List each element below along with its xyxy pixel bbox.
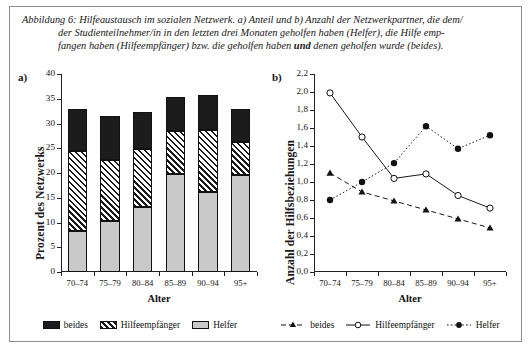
bar-segment-hilfeempfaenger: [133, 149, 153, 207]
panel-a-y-tick-label: 15: [46, 193, 55, 202]
panel-b-x-tick: [506, 272, 507, 276]
panel-a-x-axis-title: Alter: [61, 293, 257, 304]
bar-stack: [68, 74, 88, 272]
panel-a-y-tick: [57, 198, 61, 199]
panel-a-letter: a): [18, 71, 27, 83]
marker-helfer: [359, 179, 365, 185]
bar-segment-beides: [133, 112, 153, 149]
line-hilfeempfaenger: [330, 93, 490, 208]
panel-b-line-series: [314, 74, 506, 272]
panel-b-y-tick-label: 1,6: [297, 123, 308, 132]
bar-stack: [198, 74, 218, 272]
line-helfer: [330, 126, 490, 200]
panel-a-x-tick: [126, 272, 127, 276]
panel-a-x-tick: [224, 272, 225, 276]
marker-helfer: [327, 197, 333, 203]
caption-line-3: fangen haben (Hilfeempfänger) bzw. die g…: [22, 39, 514, 52]
caption-line-1: Abbildung 6: Hilfeaustausch im sozialen …: [22, 13, 514, 26]
panel-b-x-tick-label: 85–89: [415, 279, 436, 288]
marker-helfer: [423, 123, 429, 129]
panel-a-y-tick: [57, 247, 61, 248]
bar-stack: [133, 74, 153, 272]
legend-swatch-beides-icon: [43, 321, 60, 329]
panel-b-x-tick: [378, 272, 379, 276]
panel-b-y-tick-label: 0,0: [297, 267, 308, 276]
bar-segment-beides: [68, 109, 88, 152]
panel-b-y-tick-label: 1,2: [297, 159, 308, 168]
panel-a-y-tick: [57, 148, 61, 149]
bar-segment-beides: [231, 109, 251, 142]
legend-key-dotted-filledcircle-icon: [446, 320, 472, 330]
panel-b-plot-area: 0,00,20,40,60,81,01,21,41,61,82,02,2 70–…: [314, 74, 506, 272]
marker-helfer: [455, 146, 461, 152]
marker-hilfeempfaenger: [423, 171, 429, 177]
panel-a-legend: beides Hilfeempfänger Helfer: [14, 320, 266, 330]
marker-helfer: [487, 132, 493, 138]
panel-a-y-tick-label: 25: [46, 144, 55, 153]
marker-hilfeempfaenger: [359, 134, 365, 140]
legend-label-helfer: Helfer: [213, 320, 237, 330]
panel-b-y-tick-label: 2,2: [297, 69, 308, 78]
line-beides: [330, 173, 490, 228]
legend-item-b-hilfeempfaenger: Hilfeempfänger: [345, 320, 434, 330]
panel-a-y-tick-label: 35: [46, 94, 55, 103]
bar-segment-helfer: [198, 192, 218, 272]
bar-segment-hilfeempfaenger: [231, 142, 251, 175]
marker-hilfeempfaenger: [455, 192, 461, 198]
bar-segment-helfer: [100, 221, 120, 272]
panel-b-x-tick: [474, 272, 475, 276]
panel-b-y-tick-label: 1,0: [297, 177, 308, 186]
legend-key-solid-opencircle-icon: [345, 320, 371, 330]
bar-segment-helfer: [133, 207, 153, 272]
panel-a-x-tick-label: 95+: [234, 279, 247, 288]
bar-segment-hilfeempfaenger: [100, 160, 120, 221]
marker-beides: [358, 189, 365, 195]
panel-b-y-axis-title: Anzahl der Hilfsbeziehungen: [284, 140, 296, 285]
legend-item-helfer: Helfer: [192, 320, 237, 330]
panel-a: a) Prozent des Netzwerks 051015202530354…: [14, 60, 266, 318]
panel-a-y-tick-label: 30: [46, 119, 55, 128]
panel-a-x-tick: [61, 272, 62, 276]
legend-swatch-hilfeempfaenger-icon: [100, 321, 117, 329]
panel-b-x-tick-label: 70–74: [319, 279, 340, 288]
panel-b-y-tick-label: 0,8: [297, 195, 308, 204]
panel-a-x-tick-label: 90–94: [197, 279, 218, 288]
panel-a-x-tick: [257, 272, 258, 276]
panel-b-x-tick: [314, 272, 315, 276]
panel-a-y-tick: [57, 74, 61, 75]
bar-segment-hilfeempfaenger: [166, 131, 186, 174]
legend-item-hilfeempfaenger: Hilfeempfänger: [100, 320, 180, 330]
panel-b-y-tick-label: 0,4: [297, 231, 308, 240]
legend-item-beides: beides: [43, 320, 88, 330]
bar-segment-hilfeempfaenger: [68, 151, 88, 231]
panel-b-x-tick-label: 95+: [483, 279, 496, 288]
panel-a-y-tick: [57, 124, 61, 125]
panel-b-legend: beides Hilfeempfänger Helfer: [262, 320, 518, 330]
panel-a-y-axis-title: Prozent des Netzwerks: [34, 146, 46, 260]
legend-label-beides: beides: [64, 320, 88, 330]
caption-line-3-post: denen geholfen wurde (beides).: [311, 40, 444, 51]
panel-a-x-tick: [192, 272, 193, 276]
panel-a-y-tick-label: 10: [46, 218, 55, 227]
panel-b-x-tick: [346, 272, 347, 276]
bar-stack: [166, 74, 186, 272]
marker-beides: [454, 216, 461, 222]
bar-segment-hilfeempfaenger: [198, 130, 218, 192]
bar-segment-helfer: [231, 175, 251, 273]
panel-a-y-tick-label: 5: [50, 243, 55, 252]
panel-a-y-tick: [57, 223, 61, 224]
caption-line-3-pre: fangen haben (Hilfeempfänger) bzw. die g…: [58, 40, 294, 51]
panel-a-y-tick-label: 40: [46, 69, 55, 78]
marker-beides: [326, 170, 333, 176]
panel-a-y-axis-line: [61, 74, 62, 272]
bar-stack: [100, 74, 120, 272]
legend-label-b-beides: beides: [310, 320, 334, 330]
panel-a-x-tick-label: 70–74: [67, 279, 88, 288]
panel-b-x-tick: [410, 272, 411, 276]
panel-b-x-tick: [442, 272, 443, 276]
bar-segment-helfer: [166, 174, 186, 272]
caption-line-2: der Studienteilnehmer/in in den letzten …: [22, 26, 514, 39]
panel-b-x-tick-label: 75–79: [351, 279, 372, 288]
marker-hilfeempfaenger: [487, 205, 493, 211]
bar-segment-helfer: [68, 231, 88, 272]
